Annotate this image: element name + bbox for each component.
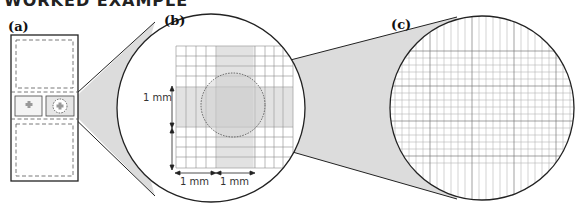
scale-label-vertical: 1 mm xyxy=(143,92,172,103)
panel-label-c: (c) xyxy=(391,17,411,32)
panel-a-slide xyxy=(11,35,78,181)
zoom-region-marker xyxy=(201,73,265,137)
panel-label-b: (b) xyxy=(164,13,185,28)
scale-label-horizontal-left: 1 mm xyxy=(180,176,209,187)
hemocytometer-diagram: (a) xyxy=(0,0,583,212)
scale-label-horizontal-right: 1 mm xyxy=(220,176,249,187)
panel-b-magnified-grid xyxy=(117,14,305,202)
panel-label-a: (a) xyxy=(8,19,29,34)
